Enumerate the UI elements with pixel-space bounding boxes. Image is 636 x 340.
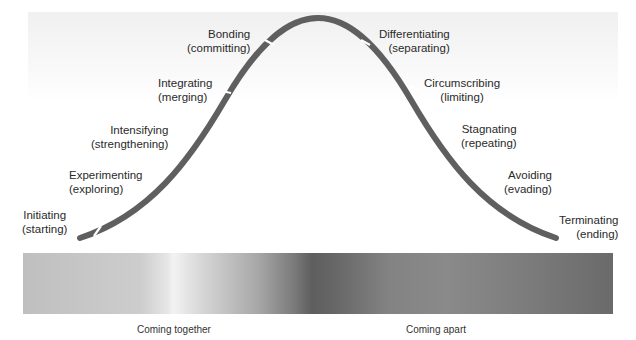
stage-name: Bonding [187,27,250,41]
stage-name: Circumscribing [424,76,500,90]
stage-experimenting: Experimenting (exploring) [69,168,143,196]
stage-name: Intensifying [91,123,168,137]
stage-name: Differentiating [379,27,450,41]
stage-name: Terminating [559,213,618,227]
stage-desc: (committing) [187,41,250,55]
stage-desc: (separating) [379,41,450,55]
intimacy-gradient-bar [23,253,613,314]
phase-label-coming-together: Coming together [137,324,211,335]
stage-name: Initiating [22,208,67,222]
stage-name: Stagnating [461,122,517,136]
stage-desc: (evading) [504,182,552,196]
stage-differentiating: Differentiating (separating) [379,27,450,55]
stage-bonding: Bonding (committing) [187,27,250,55]
stage-desc: (limiting) [424,90,500,104]
phase-label-coming-apart: Coming apart [406,324,466,335]
stage-desc: (merging) [158,90,212,104]
stage-name: Experimenting [69,168,143,182]
stage-desc: (starting) [22,222,67,236]
stage-desc: (repeating) [461,136,517,150]
stage-name: Avoiding [504,168,552,182]
stage-name: Integrating [158,76,212,90]
stage-terminating: Terminating (ending) [559,213,618,241]
stage-stagnating: Stagnating (repeating) [461,122,517,150]
stage-initiating: Initiating (starting) [22,208,67,236]
stage-desc: (ending) [559,227,618,241]
stage-desc: (exploring) [69,182,143,196]
stage-desc: (strengthening) [91,137,168,151]
stage-avoiding: Avoiding (evading) [504,168,552,196]
stage-intensifying: Intensifying (strengthening) [91,123,168,151]
stage-circumscribing: Circumscribing (limiting) [424,76,500,104]
stage-integrating: Integrating (merging) [158,76,212,104]
